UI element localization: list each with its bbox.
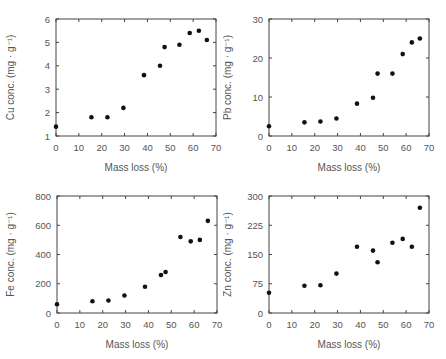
x-axis-label: Mass loss (%) bbox=[318, 162, 381, 173]
data-point bbox=[390, 241, 395, 246]
y-tick-label: 0 bbox=[258, 131, 263, 142]
zn-concentration-chart: 010203040506070075150225300Mass loss (%)… bbox=[223, 180, 446, 359]
y-tick-label: 2 bbox=[45, 107, 50, 118]
data-point bbox=[334, 116, 339, 121]
data-point bbox=[177, 42, 182, 47]
data-point bbox=[302, 283, 307, 288]
y-tick-label: 400 bbox=[35, 249, 51, 260]
x-tick-label: 60 bbox=[189, 319, 200, 330]
x-tick-label: 40 bbox=[355, 142, 366, 153]
y-tick-label: 75 bbox=[252, 278, 263, 289]
x-tick-label: 10 bbox=[287, 319, 298, 330]
x-tick-label: 50 bbox=[378, 319, 389, 330]
data-point bbox=[198, 238, 203, 243]
data-point bbox=[400, 52, 405, 57]
data-point bbox=[318, 283, 323, 288]
data-point bbox=[159, 273, 164, 278]
x-tick-label: 30 bbox=[120, 319, 131, 330]
x-axis-label: Mass loss (%) bbox=[318, 339, 381, 350]
data-point bbox=[410, 244, 415, 249]
data-point bbox=[187, 31, 192, 36]
data-point bbox=[197, 28, 202, 33]
data-point bbox=[162, 45, 167, 50]
plot-frame bbox=[269, 196, 429, 313]
x-tick-label: 30 bbox=[332, 319, 343, 330]
x-tick-label: 20 bbox=[97, 319, 108, 330]
data-point bbox=[205, 38, 210, 43]
y-axis-label: Fe conc. (mg · g⁻¹) bbox=[5, 212, 16, 296]
data-point bbox=[371, 95, 376, 100]
x-axis-label: Mass loss (%) bbox=[105, 162, 168, 173]
data-point bbox=[121, 106, 126, 111]
data-point bbox=[390, 71, 395, 76]
data-point bbox=[318, 119, 323, 124]
plot-frame bbox=[56, 19, 216, 136]
y-tick-label: 5 bbox=[45, 37, 50, 48]
x-tick-label: 10 bbox=[75, 319, 86, 330]
y-tick-label: 1 bbox=[45, 131, 50, 142]
data-point bbox=[54, 124, 59, 129]
data-point bbox=[55, 302, 60, 307]
x-tick-label: 70 bbox=[212, 319, 223, 330]
x-tick-label: 70 bbox=[424, 319, 435, 330]
data-point bbox=[122, 293, 127, 298]
y-tick-label: 20 bbox=[252, 53, 263, 64]
x-tick-label: 60 bbox=[401, 142, 412, 153]
y-tick-label: 800 bbox=[35, 191, 51, 202]
x-tick-label: 0 bbox=[266, 319, 271, 330]
x-tick-label: 30 bbox=[119, 142, 130, 153]
y-axis-label: Zn conc. (mg · g⁻¹) bbox=[223, 212, 233, 296]
y-tick-label: 150 bbox=[247, 249, 263, 260]
data-point bbox=[418, 205, 423, 210]
y-tick-label: 30 bbox=[252, 14, 263, 25]
x-axis-label: Mass loss (%) bbox=[106, 339, 169, 350]
data-point bbox=[206, 219, 211, 224]
data-point bbox=[106, 298, 111, 303]
y-tick-label: 600 bbox=[35, 220, 51, 231]
data-point bbox=[302, 120, 307, 125]
y-tick-label: 4 bbox=[45, 60, 50, 71]
y-tick-label: 6 bbox=[45, 14, 50, 25]
x-tick-label: 60 bbox=[401, 319, 412, 330]
plot-frame bbox=[57, 196, 217, 313]
y-axis-label: Cu conc. (mg · g⁻¹) bbox=[5, 35, 16, 121]
y-tick-label: 300 bbox=[247, 191, 263, 202]
y-tick-label: 0 bbox=[46, 308, 51, 319]
x-tick-label: 0 bbox=[54, 319, 59, 330]
data-point bbox=[267, 290, 272, 295]
y-tick-label: 225 bbox=[247, 220, 263, 231]
x-tick-label: 20 bbox=[309, 142, 320, 153]
fe-concentration-chart: 0102030405060700200400600800Mass loss (%… bbox=[0, 180, 223, 359]
x-tick-label: 60 bbox=[188, 142, 199, 153]
data-point bbox=[371, 248, 376, 253]
x-tick-label: 20 bbox=[309, 319, 320, 330]
data-point bbox=[267, 124, 272, 129]
y-tick-label: 10 bbox=[252, 92, 263, 103]
x-tick-label: 70 bbox=[424, 142, 435, 153]
x-tick-label: 70 bbox=[211, 142, 222, 153]
x-tick-label: 30 bbox=[332, 142, 343, 153]
data-point bbox=[400, 237, 405, 242]
data-point bbox=[143, 284, 148, 289]
data-point bbox=[375, 260, 380, 265]
x-tick-label: 40 bbox=[143, 319, 154, 330]
cu-concentration-chart: 010203040506070123456Mass loss (%)Cu con… bbox=[0, 0, 223, 180]
x-tick-label: 10 bbox=[74, 142, 85, 153]
data-point bbox=[410, 40, 415, 45]
data-point bbox=[334, 271, 339, 276]
data-point bbox=[355, 101, 360, 106]
x-tick-label: 40 bbox=[355, 319, 366, 330]
x-tick-label: 40 bbox=[142, 142, 153, 153]
y-tick-label: 200 bbox=[35, 278, 51, 289]
data-point bbox=[105, 115, 110, 120]
data-point bbox=[142, 73, 147, 78]
y-tick-label: 3 bbox=[45, 84, 50, 95]
x-tick-label: 50 bbox=[165, 142, 176, 153]
data-point bbox=[188, 239, 193, 244]
x-tick-label: 0 bbox=[266, 142, 271, 153]
x-tick-label: 10 bbox=[287, 142, 298, 153]
pb-concentration-chart: 0102030405060700102030Mass loss (%)Pb co… bbox=[223, 0, 446, 180]
data-point bbox=[90, 299, 95, 304]
data-point bbox=[375, 71, 380, 76]
data-point bbox=[178, 235, 183, 240]
